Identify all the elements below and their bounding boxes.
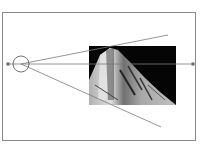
image-plane [89, 46, 176, 105]
axis-end-marker [192, 63, 195, 66]
frustum-diagram [0, 0, 209, 148]
axis-start-marker [7, 63, 10, 66]
